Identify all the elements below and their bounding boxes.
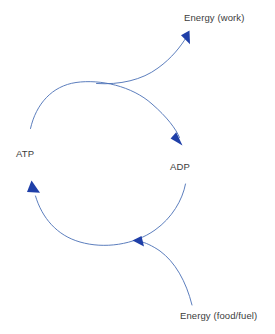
curve-energy-food bbox=[141, 242, 193, 306]
cycle-diagram-canvas bbox=[0, 0, 275, 334]
atp-adp-cycle-diagram: ATP ADP Energy (work) Energy (food/fuel) bbox=[0, 0, 275, 334]
arc-atp-to-adp bbox=[31, 82, 180, 138]
arc-adp-to-atp bbox=[36, 184, 186, 245]
node-label-energy-work: Energy (work) bbox=[184, 12, 244, 24]
node-label-adp: ADP bbox=[170, 161, 190, 173]
arrowhead-energy-work bbox=[181, 31, 190, 45]
node-label-atp: ATP bbox=[16, 148, 34, 160]
arrowhead-to-atp bbox=[27, 181, 40, 193]
arrowhead-to-adp bbox=[171, 132, 183, 145]
curve-energy-work bbox=[97, 37, 187, 84]
node-label-energy-food: Energy (food/fuel) bbox=[180, 310, 257, 322]
